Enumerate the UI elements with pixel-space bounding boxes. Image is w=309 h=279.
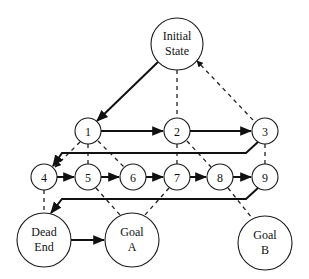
node-label: End: [34, 240, 53, 254]
node-label: 7: [174, 171, 180, 185]
edge-5-goala: [96, 188, 120, 215]
node-goal-a: Goal A: [105, 213, 159, 267]
edge-1-4: [55, 142, 80, 167]
node-6: 6: [120, 164, 146, 190]
node-4: 4: [31, 164, 57, 190]
node-dead-end: Dead End: [17, 213, 71, 267]
node-9: 9: [252, 164, 278, 190]
node-label: 8: [217, 171, 223, 185]
search-graph-diagram: Initial State 1 2 3 4 5 6 7 8 9 Dead End: [0, 0, 309, 279]
node-label: Initial: [163, 29, 192, 43]
node-label: 2: [174, 125, 180, 139]
node-label: Goal: [253, 228, 277, 242]
edge-3-4: [53, 142, 258, 166]
node-initial-state: Initial State: [151, 18, 203, 70]
node-label: State: [165, 44, 189, 58]
node-1: 1: [75, 118, 101, 144]
edge-initial-1: [97, 62, 158, 121]
node-5: 5: [75, 164, 101, 190]
node-7: 7: [164, 164, 190, 190]
node-label: 1: [85, 125, 91, 139]
node-goal-b: Goal B: [238, 216, 292, 270]
node-label: 9: [262, 171, 268, 185]
node-label: 3: [262, 125, 268, 139]
dashed-edges: [44, 61, 265, 218]
node-8: 8: [207, 164, 233, 190]
node-label: 5: [85, 171, 91, 185]
edge-initial-3: [197, 61, 253, 120]
node-label: A: [128, 240, 137, 254]
node-label: B: [261, 243, 269, 257]
solid-edges: [51, 62, 258, 240]
node-label: Goal: [120, 225, 144, 239]
node-label: 4: [41, 171, 47, 185]
node-2: 2: [164, 118, 190, 144]
node-label: 6: [130, 171, 136, 185]
node-3: 3: [252, 118, 278, 144]
edge-9-deadend: [51, 188, 258, 213]
edge-7-goala: [145, 188, 169, 215]
node-label: Dead: [31, 225, 56, 239]
edge-8-goalb: [228, 188, 252, 218]
